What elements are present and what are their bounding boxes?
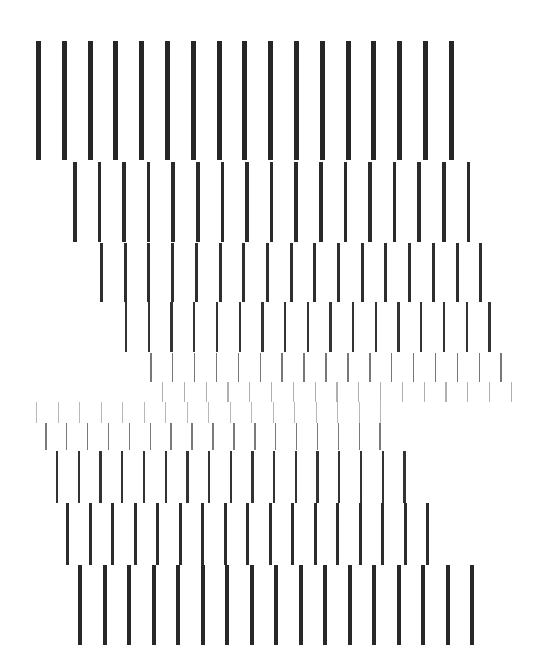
vertical-bar xyxy=(275,423,277,450)
vertical-bar xyxy=(397,565,401,645)
vertical-bar xyxy=(129,423,131,450)
vertical-bar xyxy=(143,451,145,503)
vertical-bar xyxy=(467,162,471,242)
vertical-bar xyxy=(489,382,490,402)
vertical-bar xyxy=(170,302,172,352)
vertical-bar xyxy=(446,565,450,645)
vertical-bar xyxy=(303,353,305,382)
vertical-bar xyxy=(316,451,318,503)
vertical-bar xyxy=(156,503,159,565)
vertical-bar xyxy=(369,353,371,382)
vertical-bar xyxy=(249,382,250,402)
vertical-bar xyxy=(172,353,174,382)
vertical-bar xyxy=(195,243,198,302)
vertical-bar xyxy=(435,353,437,382)
vertical-bar xyxy=(103,565,107,645)
vertical-bar xyxy=(162,382,163,402)
vertical-bar xyxy=(165,41,170,160)
vertical-bar xyxy=(426,503,429,565)
vertical-bar xyxy=(225,565,229,645)
vertical-bar xyxy=(380,382,381,402)
vertical-bar xyxy=(208,402,209,423)
vertical-bar xyxy=(250,565,254,645)
vertical-bar xyxy=(372,565,376,645)
vertical-bar xyxy=(139,41,144,160)
vertical-bar xyxy=(242,41,247,160)
vertical-bar xyxy=(230,451,232,503)
vertical-bar xyxy=(251,451,253,503)
vertical-bar xyxy=(408,243,411,302)
vertical-bar xyxy=(56,451,58,503)
vertical-bar xyxy=(403,451,405,503)
vertical-bar xyxy=(479,243,482,302)
vertical-bar xyxy=(346,41,351,160)
vertical-bar xyxy=(271,382,272,402)
vertical-bar xyxy=(511,382,512,402)
vertical-bar xyxy=(179,503,182,565)
vertical-bar xyxy=(150,423,152,450)
vertical-bar xyxy=(216,302,218,352)
vertical-bar xyxy=(121,451,123,503)
vertical-bar xyxy=(432,243,435,302)
vertical-bar xyxy=(73,162,77,242)
vertical-bar xyxy=(147,162,151,242)
vertical-bar xyxy=(127,565,131,645)
vertical-bar xyxy=(337,243,340,302)
vertical-bar xyxy=(217,41,222,160)
vertical-bar xyxy=(36,402,37,423)
vertical-bar xyxy=(359,423,361,450)
vertical-bar xyxy=(457,353,459,382)
vertical-bar xyxy=(467,382,468,402)
vertical-bar xyxy=(371,41,376,160)
vertical-bar xyxy=(216,353,218,382)
vertical-bar xyxy=(273,451,275,503)
vertical-bar xyxy=(66,503,69,565)
vertical-bar xyxy=(358,382,359,402)
vertical-bar xyxy=(62,41,67,160)
vertical-bar xyxy=(299,565,303,645)
vertical-bar xyxy=(391,353,393,382)
vertical-bar xyxy=(380,402,381,423)
vertical-bar xyxy=(281,353,283,382)
vertical-bar xyxy=(239,302,241,352)
vertical-bar xyxy=(273,402,274,423)
vertical-bar xyxy=(194,353,196,382)
vertical-bar xyxy=(227,382,228,402)
vertical-bar xyxy=(479,353,481,382)
vertical-bar xyxy=(294,162,298,242)
vertical-bar xyxy=(368,162,372,242)
vertical-bar xyxy=(316,402,317,423)
vertical-bar xyxy=(443,302,445,352)
vertical-bar xyxy=(254,423,256,450)
vertical-bar xyxy=(193,302,195,352)
vertical-bar xyxy=(470,565,474,645)
vertical-bar xyxy=(352,302,354,352)
vertical-bar xyxy=(246,503,249,565)
vertical-bar xyxy=(221,162,225,242)
vertical-bar xyxy=(88,41,93,160)
vertical-bar xyxy=(36,41,41,160)
vertical-bar xyxy=(325,353,327,382)
vertical-bar xyxy=(290,243,293,302)
vertical-bar xyxy=(274,565,278,645)
vertical-bar xyxy=(268,41,273,160)
vertical-bar xyxy=(442,162,446,242)
vertical-bar xyxy=(413,353,415,382)
vertical-bar xyxy=(456,243,459,302)
vertical-bar xyxy=(270,162,274,242)
vertical-bar xyxy=(208,451,210,503)
vertical-bar xyxy=(294,41,299,160)
vertical-bar xyxy=(187,402,188,423)
vertical-bar xyxy=(397,302,399,352)
vertical-bar xyxy=(466,302,468,352)
vertical-bar xyxy=(344,162,348,242)
vertical-bar xyxy=(338,423,340,450)
vertical-bar xyxy=(224,503,227,565)
vertical-bar xyxy=(449,41,454,160)
vertical-bar xyxy=(379,423,381,450)
vertical-bar xyxy=(124,243,127,302)
vertical-bar xyxy=(500,353,502,382)
vertical-bar xyxy=(337,402,338,423)
vertical-bar xyxy=(238,353,240,382)
vertical-bar xyxy=(191,41,196,160)
